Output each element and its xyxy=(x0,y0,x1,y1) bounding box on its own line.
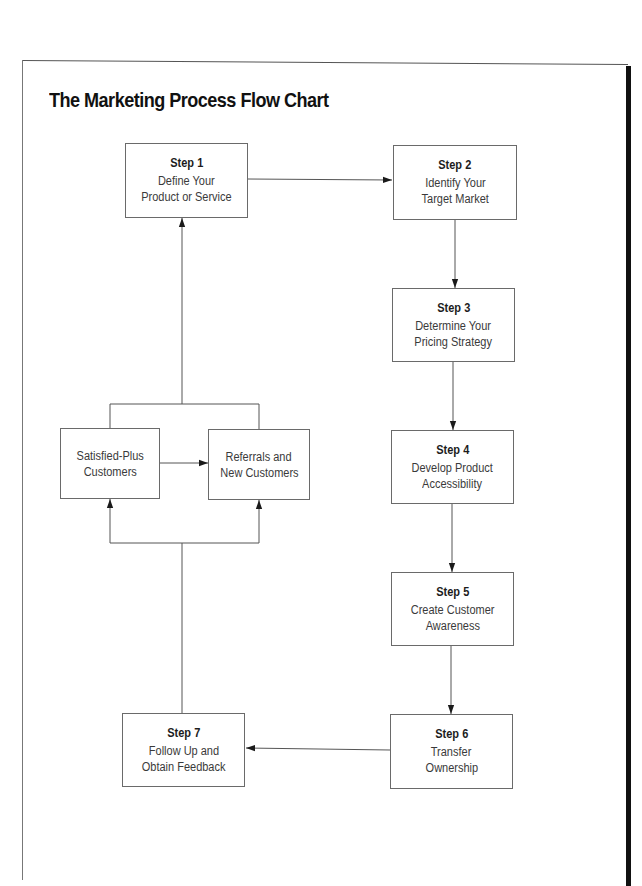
satisfied-line2: Customers xyxy=(83,464,136,480)
step-2-label: Step 2 xyxy=(438,158,471,172)
step-4-label: Step 4 xyxy=(436,443,469,457)
step-5-label: Step 5 xyxy=(436,585,469,599)
arrow-step1-to-step2 xyxy=(248,179,392,180)
step-6-desc-line1: Transfer xyxy=(431,744,472,760)
step-1-desc-line1: Define Your xyxy=(158,173,215,189)
step-7-label: Step 7 xyxy=(167,726,200,740)
step-5-desc-line2: Awareness xyxy=(425,618,479,634)
step-2-desc-line2: Target Market xyxy=(421,191,488,207)
step-6-label: Step 6 xyxy=(435,727,468,741)
step-3-desc-line2: Pricing Strategy xyxy=(415,334,493,350)
step-1-box: Step 1 Define Your Product or Service xyxy=(125,143,248,218)
step-7-desc-line1: Follow Up and xyxy=(148,743,218,759)
satisfied-line1: Satisfied-Plus xyxy=(76,448,143,464)
step-2-box: Step 2 Identify Your Target Market xyxy=(393,145,517,220)
referrals-new-customers-box: Referrals and New Customers xyxy=(208,429,310,500)
arrow-step6-to-step7 xyxy=(246,748,390,750)
step-3-box: Step 3 Determine Your Pricing Strategy xyxy=(392,288,515,362)
step-7-box: Step 7 Follow Up and Obtain Feedback xyxy=(122,713,245,787)
step-5-desc-line1: Create Customer xyxy=(411,602,495,618)
step-7-desc-line2: Obtain Feedback xyxy=(142,759,226,775)
step-6-desc-line2: Ownership xyxy=(425,760,478,776)
step-2-desc-line1: Identify Your xyxy=(425,175,486,191)
step-5-box: Step 5 Create Customer Awareness xyxy=(391,572,514,646)
step-6-box: Step 6 Transfer Ownership xyxy=(390,714,513,789)
step-1-desc-line2: Product or Service xyxy=(141,189,231,205)
step-3-desc-line1: Determine Your xyxy=(416,318,492,334)
satisfied-plus-customers-box: Satisfied-Plus Customers xyxy=(60,428,160,499)
referrals-line1: Referrals and xyxy=(226,449,292,465)
step-3-label: Step 3 xyxy=(437,301,470,315)
step-4-box: Step 4 Develop Product Accessibility xyxy=(391,430,514,504)
step-1-label: Step 1 xyxy=(170,156,203,170)
step-4-desc-line1: Develop Product xyxy=(412,460,493,476)
referrals-line2: New Customers xyxy=(220,465,298,481)
step-4-desc-line2: Accessibility xyxy=(423,476,483,492)
